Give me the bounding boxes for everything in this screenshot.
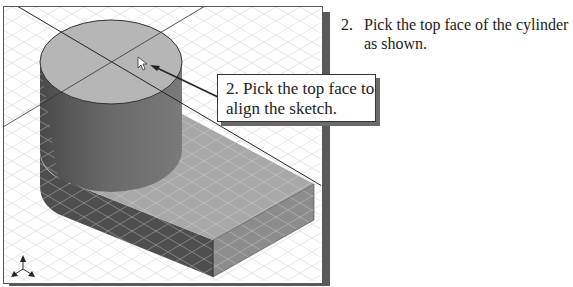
callout-box: 2. Pick the top face to align the sketch… xyxy=(217,74,376,122)
step-text: Pick the top face of the cylinder as sho… xyxy=(364,15,573,53)
callout-text: 2. Pick the top face to align the sketch… xyxy=(226,79,374,119)
step-number: 2. xyxy=(341,15,353,34)
